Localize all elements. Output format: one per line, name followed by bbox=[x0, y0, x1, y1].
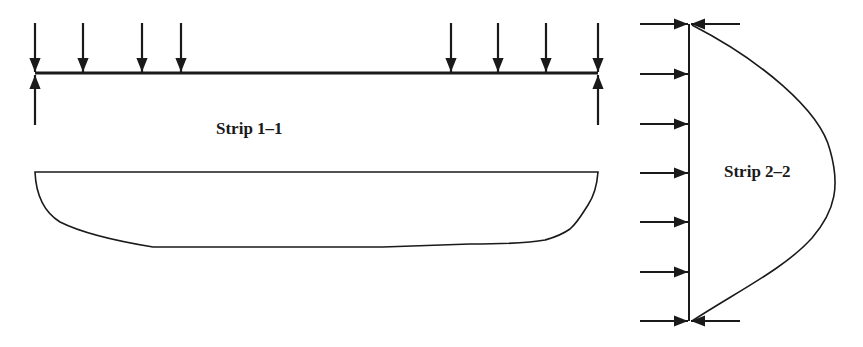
strip1-beam-group bbox=[35, 23, 598, 125]
strip2-lateral-loads bbox=[640, 24, 688, 321]
strip1-label: Strip 1–1 bbox=[216, 119, 283, 139]
strip1-moment-diagram bbox=[35, 172, 598, 247]
strip2-label: Strip 2–2 bbox=[724, 162, 791, 182]
strip1-point-loads bbox=[35, 23, 598, 72]
strip1-supports bbox=[35, 75, 598, 125]
